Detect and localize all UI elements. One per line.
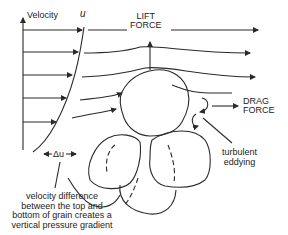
- streamline: [82, 68, 255, 77]
- caption-text: velocity difference between the top and …: [0, 192, 124, 230]
- caption-leader-line: [55, 162, 60, 188]
- caption-line: vertical pressure gradient: [0, 221, 124, 231]
- drag-label-line: FORCE: [243, 106, 275, 115]
- drag-force-label: DRAG FORCE: [243, 97, 275, 115]
- profile-u-label: u: [80, 9, 86, 19]
- eddy-leader-line: [203, 118, 232, 143]
- eddy-label-line: turbulent: [222, 147, 257, 157]
- streamline: [80, 93, 122, 100]
- eddy-arrow: [192, 114, 198, 126]
- eddy-arrow: [200, 98, 208, 112]
- lift-label-line: FORCE: [130, 21, 162, 30]
- grain-lower-left: [89, 135, 141, 189]
- streamline: [84, 47, 250, 53]
- grain-bottom: [120, 185, 176, 214]
- grain-hidden-edge: [168, 145, 175, 182]
- turbulent-eddying-label: turbulent eddying: [222, 147, 257, 167]
- grain-top: [120, 70, 189, 136]
- velocity-profile-curve: [33, 27, 84, 152]
- lift-force-label: LIFT FORCE: [130, 12, 162, 30]
- velocity-axis-label: Velocity: [27, 10, 58, 20]
- delta-u-label: Δu: [53, 149, 64, 159]
- grain-lower-right: [150, 131, 211, 187]
- grain-hidden-edge: [106, 145, 115, 172]
- streamline: [172, 85, 232, 93]
- eddy-label-line: eddying: [222, 157, 257, 167]
- streamline: [72, 109, 116, 118]
